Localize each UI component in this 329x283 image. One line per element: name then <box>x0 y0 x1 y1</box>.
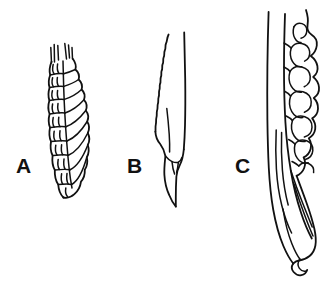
figure-line-drawing <box>0 0 329 283</box>
figure-container: A B C <box>0 0 329 283</box>
figure-background <box>0 0 329 283</box>
panel-label-c: C <box>235 155 250 176</box>
panel-label-a: A <box>16 155 31 176</box>
panel-label-b: B <box>127 155 142 176</box>
